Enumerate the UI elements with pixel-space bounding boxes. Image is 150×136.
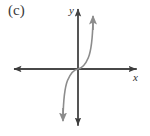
y-axis-label: y <box>68 4 74 16</box>
graph-canvas: y x <box>0 0 150 136</box>
figure-panel: (c) y x <box>0 0 150 136</box>
x-axis-label: x <box>132 71 138 83</box>
